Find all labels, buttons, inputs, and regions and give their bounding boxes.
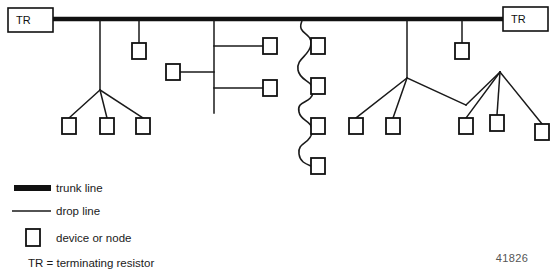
drop-line-left-branch-a: [69, 90, 100, 118]
legend-label-device-or-node: device or node: [56, 232, 131, 244]
legend-item-trunk-line: trunk line: [14, 182, 103, 194]
device-node[interactable]: [100, 118, 114, 134]
legend-item-terminating-resistor: TR = terminating resistor: [28, 257, 154, 269]
legend-label-trunk-line: trunk line: [56, 182, 103, 194]
device-node[interactable]: [459, 118, 473, 134]
legend-label-terminating-resistor: TR = terminating resistor: [28, 257, 154, 269]
terminating-resistor-right[interactable]: TR: [503, 7, 548, 31]
drop-lines-group: [69, 21, 542, 124]
device-node[interactable]: [349, 118, 363, 134]
device-node[interactable]: [490, 115, 504, 131]
device-node[interactable]: [132, 43, 146, 59]
legend-swatch-trunk-line: [14, 185, 51, 191]
drop-line-right-subtree-a: [466, 72, 500, 118]
device-node[interactable]: [535, 124, 549, 140]
device-node[interactable]: [455, 43, 469, 59]
device-node[interactable]: [311, 118, 325, 134]
legend-swatch-device-box: [26, 229, 40, 246]
figure-number: 41826: [496, 252, 529, 264]
legend: trunk line drop line device or node TR =…: [12, 182, 154, 269]
network-topology-diagram: TR TR: [0, 0, 557, 280]
device-node[interactable]: [386, 118, 400, 134]
drop-line-right-subtree-c: [500, 72, 542, 124]
tr-left-label: TR: [16, 14, 31, 26]
drop-line-right-subtree-span: [466, 72, 500, 105]
device-node[interactable]: [136, 118, 150, 134]
legend-label-drop-line: drop line: [56, 205, 100, 217]
device-node[interactable]: [263, 38, 277, 54]
device-nodes-group: [62, 38, 549, 174]
drop-line-right-branch-right: [407, 78, 466, 105]
device-node[interactable]: [311, 158, 325, 174]
device-node[interactable]: [311, 38, 325, 54]
device-node[interactable]: [166, 64, 180, 80]
tr-right-label: TR: [511, 13, 526, 25]
figure-root: TR TR: [0, 0, 557, 280]
legend-item-drop-line: drop line: [12, 205, 100, 217]
device-node[interactable]: [62, 118, 76, 134]
drop-line-right-subtree-b: [497, 72, 500, 115]
device-node[interactable]: [263, 80, 277, 96]
terminating-resistor-left[interactable]: TR: [8, 8, 53, 32]
legend-item-device-or-node: device or node: [26, 229, 131, 246]
device-node[interactable]: [311, 78, 325, 94]
